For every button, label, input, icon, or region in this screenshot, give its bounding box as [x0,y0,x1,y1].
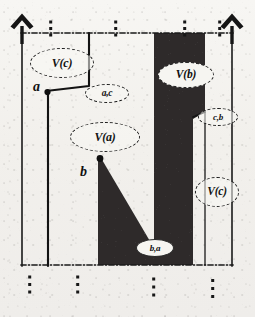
edge-label-ba: b,a [136,239,174,257]
top-marker-2 [114,21,117,37]
region-label-v-b: V(b) [158,62,214,88]
bottom-marker-3 [152,278,155,297]
top-marker-1 [49,21,52,37]
edge-label-ac: a,c [85,84,129,103]
site-label-b: b [80,165,87,179]
region-label-v-c-upper-left: V(c) [30,48,94,78]
diagram-artwork [0,0,255,317]
region-label-text: V(a) [94,131,115,143]
site-label-a: a [33,80,40,94]
edge-label-text: a,c [102,89,113,99]
site-label-text: b [80,164,87,179]
bottom-marker-4 [211,279,214,298]
top-marker-4 [218,21,221,37]
bottom-marker-1 [28,276,31,294]
figure-canvas: V(c) V(b) V(a) V(c) a,c c,b b,a a b [0,0,255,317]
region-label-text: V(b) [176,69,196,81]
top-marker-3 [183,21,186,37]
bottom-marker-2 [76,276,79,294]
site-label-text: a [33,79,40,94]
region-label-v-a: V(a) [70,122,140,152]
site-a-vertex [44,89,50,95]
region-label-text: V(c) [52,57,73,69]
edge-label-text: c,b [213,113,223,122]
site-b-vertex [97,155,104,162]
edge-label-text: b,a [150,244,161,253]
edge-label-cb: c,b [198,108,238,126]
scan-speckle [0,0,255,317]
region-label-v-c-lower-right: V(c) [195,177,239,207]
region-label-text: V(c) [207,186,227,198]
